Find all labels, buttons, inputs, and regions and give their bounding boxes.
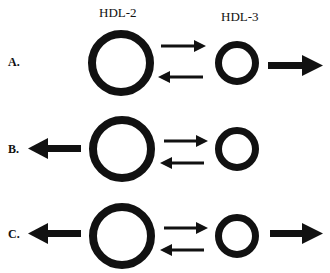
hdl2-particle-icon xyxy=(92,34,150,92)
reverse-arrow-icon xyxy=(160,244,204,256)
hdl3-particle-icon xyxy=(219,45,256,82)
hdl2-particle-icon xyxy=(93,120,151,178)
hdl2-particle-icon xyxy=(93,207,151,265)
row-c xyxy=(28,207,323,265)
hdl3-particle-icon xyxy=(219,131,256,168)
left-efflux-arrow-icon xyxy=(28,223,81,244)
forward-arrow-icon xyxy=(164,135,208,147)
hdl3-particle-icon xyxy=(219,218,256,255)
left-efflux-arrow-icon xyxy=(28,138,81,159)
forward-arrow-icon xyxy=(164,222,208,234)
forward-arrow-icon xyxy=(161,40,206,52)
reverse-arrow-icon xyxy=(160,157,204,169)
reverse-arrow-icon xyxy=(158,71,203,83)
hdl-conversion-diagram xyxy=(0,0,330,273)
row-b xyxy=(28,120,256,178)
right-efflux-arrow-icon xyxy=(268,55,323,76)
right-efflux-arrow-icon xyxy=(270,223,323,244)
row-a xyxy=(92,34,323,92)
